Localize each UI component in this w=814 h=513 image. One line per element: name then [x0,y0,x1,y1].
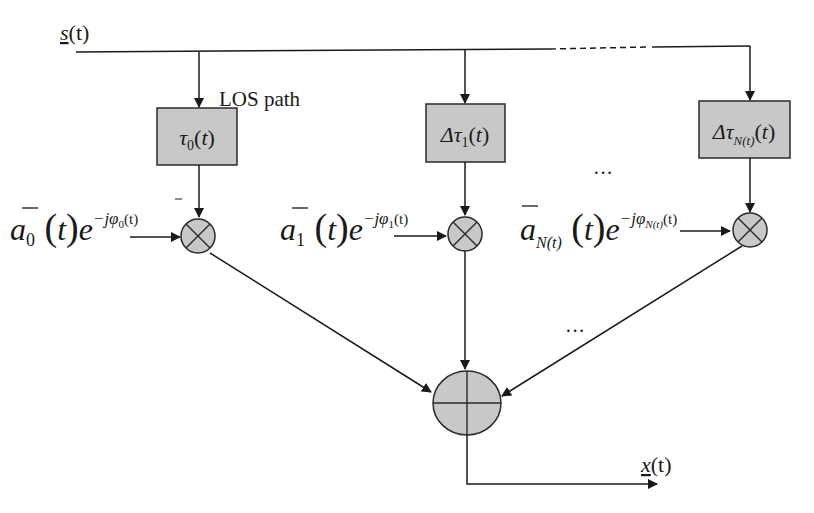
multiplier-icon-n [733,213,767,247]
path-branch-n: ΔτN(t)(t) aN(t) (t)e−jφN(t)(t) [502,46,790,396]
arrow-diagonal-icon [502,246,742,396]
summer-icon [433,371,501,435]
multiplier-icon-1 [448,217,482,251]
arrow-diagonal-icon [210,253,431,392]
output-arrow [467,435,657,484]
ellipsis-top: ··· [593,162,613,184]
gain-label-0: a0 (t)e−jφ0(t) [10,206,138,250]
output-signal-label: x(t) [640,452,672,477]
path-branch-1: Δτ1(t) a1 (t)e−jφ1(t) [280,50,505,369]
multiplier-icon-0 [181,219,215,253]
delay-label-0: τ0(t) [179,125,215,153]
multipath-channel-diagram: s(t) LOS path τ0(t) a0 (t)e−jφ0(t) [0,0,814,513]
gain-label-n: aN(t) (t)e−jφN(t)(t) [520,206,677,252]
delay-block-1 [426,104,505,162]
input-signal-label: s(t) [60,20,89,45]
input-bus [76,46,750,52]
ellipsis-bottom: ··· [565,320,585,342]
gain-label-1: a1 (t)e−jφ1(t) [280,206,408,250]
